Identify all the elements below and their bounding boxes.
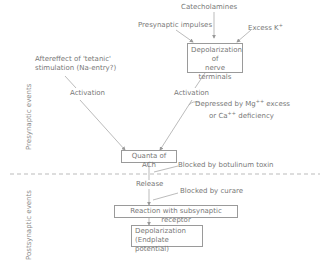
section-label-postsynaptic: Postsynaptic events <box>25 190 33 260</box>
depolarization-end-line1: Depolarization <box>135 227 199 236</box>
depressed-l1-sup: ++ <box>256 98 264 104</box>
depolarization-terminals-line2: nerve terminals <box>191 64 239 82</box>
depressed-line2: or Ca++ deficiency <box>195 109 290 121</box>
node-depressed-by: Depressed by Mg++ excess or Ca++ deficie… <box>195 97 290 122</box>
excess-k-sup: + <box>279 22 283 28</box>
depressed-l2-sup: ++ <box>228 110 236 116</box>
node-activation-left: Activation <box>70 89 105 98</box>
node-reaction-receptor: Reaction with subsynaptic receptor <box>114 205 238 218</box>
node-blocked-curare: Blocked by curare <box>180 187 243 196</box>
depolarization-end-line2: (Endplate potential) <box>135 236 199 254</box>
depressed-l1-a: Depressed by Mg <box>195 100 256 108</box>
node-blocked-botulinum: Blocked by botulinum toxin <box>178 161 274 170</box>
node-quanta-ach: Quanta of ACh <box>121 150 177 163</box>
node-aftereffect: Aftereffect of 'tetanic' stimulation (Na… <box>35 55 116 73</box>
node-depolarization-terminals: Depolarization of nerve terminals <box>187 43 243 73</box>
node-catecholamines: Catecholamines <box>181 3 237 12</box>
depressed-l2-a: or Ca <box>209 113 228 121</box>
depressed-line1: Depressed by Mg++ excess <box>195 97 290 109</box>
aftereffect-line2: stimulation (Na-entry?) <box>35 64 116 73</box>
node-excess-k: Excess K+ <box>248 21 283 33</box>
aftereffect-line1: Aftereffect of 'tetanic' <box>35 55 116 64</box>
excess-k-label: Excess K <box>248 24 279 32</box>
depolarization-terminals-line1: Depolarization of <box>191 46 239 64</box>
node-release: Release <box>136 180 163 189</box>
section-label-presynaptic: Presynaptic events <box>25 84 33 150</box>
node-depolarization-endplate: Depolarization (Endplate potential) <box>131 225 203 247</box>
depressed-l2-b: deficiency <box>236 113 274 121</box>
node-presynaptic-impulses: Presynaptic impulses <box>138 21 212 30</box>
depressed-l1-b: excess <box>264 100 290 108</box>
